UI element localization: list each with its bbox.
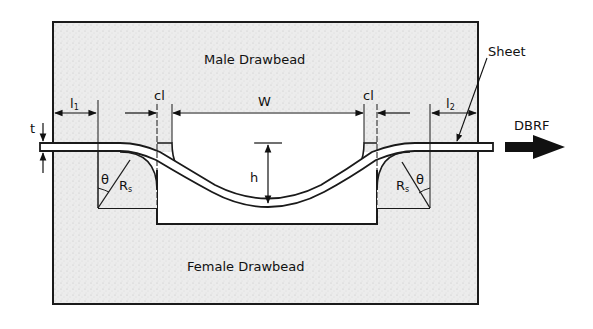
h-label: h [250, 170, 258, 185]
male-drawbead-label: Male Drawbead [204, 52, 305, 67]
w-label: W [258, 94, 271, 109]
dbrf-arrow-icon [505, 135, 565, 159]
sheet-label: Sheet [488, 44, 526, 59]
drawbead-diagram: Male Drawbead Female Drawbead Sheet DBRF… [0, 0, 593, 329]
t-label: t [30, 121, 35, 136]
cl-left-label: cl [154, 88, 165, 103]
theta-right-label: θ [416, 172, 424, 187]
female-drawbead-label: Female Drawbead [187, 259, 305, 274]
theta-left-label: θ [101, 172, 109, 187]
cl-right-label: cl [363, 88, 374, 103]
dbrf-label: DBRF [514, 118, 549, 133]
